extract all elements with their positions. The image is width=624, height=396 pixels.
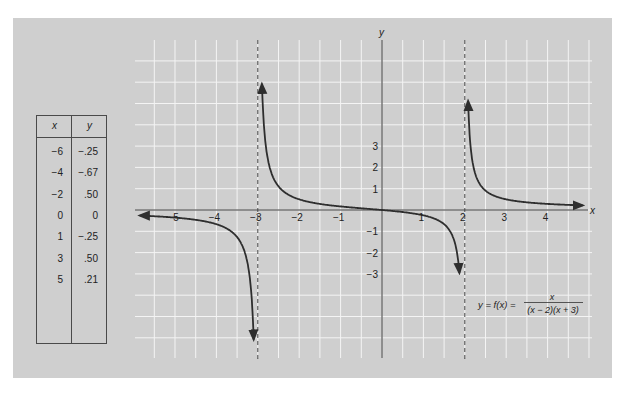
y-tick-label: −3 bbox=[367, 269, 379, 280]
function-graph: −5−4−3−2−11234321−1−2−3 x y y = f(x) = x… bbox=[0, 0, 624, 396]
x-tick-label: 1 bbox=[419, 212, 425, 223]
grid-lines bbox=[135, 40, 592, 358]
formula-numerator: x bbox=[549, 292, 555, 302]
y-tick-label: 2 bbox=[372, 162, 378, 173]
y-tick-label: 1 bbox=[372, 184, 378, 195]
y-tick-label: 3 bbox=[372, 141, 378, 152]
y-tick-label: −2 bbox=[367, 248, 379, 259]
x-tick-label: 2 bbox=[460, 212, 466, 223]
curve-branch-middle bbox=[262, 84, 460, 273]
x-tick-label: −1 bbox=[333, 212, 345, 223]
x-tick-label: −4 bbox=[209, 212, 221, 223]
x-tick-label: −5 bbox=[167, 212, 179, 223]
formula-lhs: y = f(x) = bbox=[477, 299, 516, 310]
x-axis-label: x bbox=[589, 205, 596, 216]
x-tick-label: −3 bbox=[250, 212, 262, 223]
formula-denominator: (x − 2)(x + 3) bbox=[527, 305, 579, 315]
x-tick-label: 4 bbox=[543, 212, 549, 223]
y-tick-label: −1 bbox=[367, 226, 379, 237]
x-tick-label: 3 bbox=[501, 212, 507, 223]
x-tick-label: −2 bbox=[291, 212, 303, 223]
y-axis-label: y bbox=[378, 27, 385, 38]
